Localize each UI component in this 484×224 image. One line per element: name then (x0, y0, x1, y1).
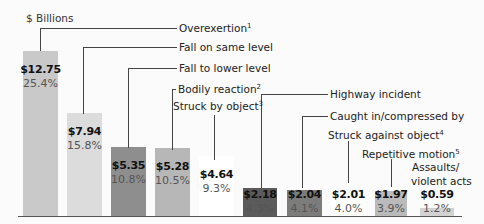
leader-line-caught-v (302, 116, 303, 188)
label-overexertion: Overexertion1 (179, 22, 252, 34)
label-fall-same-level: Fall on same level (179, 41, 273, 53)
leader-line-repetitive-v (391, 159, 392, 187)
value-label-fall-lower-level: $5.35 (107, 159, 150, 172)
value-label-assaults: $0.59 (416, 188, 458, 201)
value-label-caught-in: $2.04 (283, 188, 326, 201)
label-fall-lower-level: Fall to lower level (179, 62, 271, 74)
percent-label-fall-lower-level: 10.8% (107, 173, 150, 186)
percent-label-caught-in: 4.1% (283, 202, 326, 215)
value-label-fall-same-level: $7.94 (63, 125, 106, 138)
leader-line-highway-h (261, 94, 328, 95)
value-label-overexertion: $12.75 (19, 63, 62, 76)
label-bodily-reaction: Bodily reaction2 (178, 83, 261, 95)
value-label-highway-incident: $2.18 (239, 188, 281, 201)
label-struck-against-object: Struck against object4 (328, 129, 444, 141)
x-axis-baseline (18, 216, 462, 217)
percent-label-bodily-reaction: 10.5% (151, 174, 194, 187)
leader-line-struck-by-v (214, 115, 215, 160)
percent-label-struck-against-object: 4.0% (327, 202, 370, 215)
percent-label-overexertion: 25.4% (19, 77, 62, 90)
leader-line-overexertion-v (40, 28, 41, 51)
percent-label-repetitive-motion: 3.9% (371, 202, 411, 215)
percent-label-highway-incident: 4.3% (239, 202, 281, 215)
label-struck-by-object: Struck by object3 (173, 100, 263, 112)
label-caught-in: Caught in/compressed by (330, 110, 464, 122)
leader-line-bodily-h (172, 89, 176, 90)
leader-line-fall-lower-v (128, 68, 129, 148)
leader-line-struck-against-v (348, 141, 349, 183)
percent-label-assaults: 1.2% (416, 202, 458, 215)
leader-line-fall-same-v (83, 47, 84, 114)
label-assaults: Assaults/ (412, 161, 459, 173)
label-highway-incident: Highway incident (330, 88, 421, 100)
y-unit-label: $ Billions (26, 12, 73, 24)
value-label-struck-against-object: $2.01 (327, 188, 370, 201)
leader-line-bodily-v (172, 89, 173, 150)
leader-line-overexertion-h (40, 28, 177, 29)
label-repetitive-motion: Repetitive motion5 (362, 148, 460, 160)
label-violent-acts: violent acts (411, 175, 472, 187)
value-label-repetitive-motion: $1.97 (371, 188, 411, 201)
value-label-struck-by-object: $4.64 (195, 168, 238, 181)
percent-label-struck-by-object: 9.3% (195, 182, 238, 195)
leader-line-fall-lower-h (128, 68, 177, 69)
leader-line-fall-same-h (83, 47, 177, 48)
value-label-bodily-reaction: $5.28 (151, 160, 194, 173)
leader-line-caught-h (302, 116, 328, 117)
percent-label-fall-same-level: 15.8% (63, 139, 106, 152)
